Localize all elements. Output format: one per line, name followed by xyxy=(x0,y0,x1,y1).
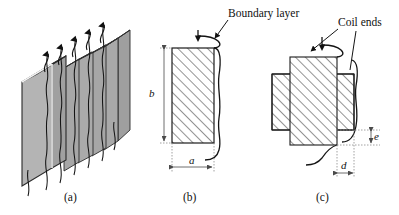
panel-b-artwork xyxy=(160,20,228,172)
dimension-label-d: d xyxy=(341,160,347,171)
dimension-label-b: b xyxy=(149,88,155,99)
caption-panel-c: (c) xyxy=(316,192,329,204)
leader-line-icon xyxy=(215,20,228,38)
figure-container: Boundary layer Coil ends b a e d (a) (b)… xyxy=(0,0,399,215)
boundary-layer-label: Boundary layer xyxy=(228,8,299,20)
caption-panel-a: (a) xyxy=(64,192,77,204)
iso-block-stack xyxy=(22,30,130,186)
dimension-label-a: a xyxy=(189,155,195,166)
coil-ends-label: Coil ends xyxy=(338,17,382,29)
coil-core-c xyxy=(290,57,337,145)
dimension-label-e: e xyxy=(374,131,379,142)
coil-cross-section-b xyxy=(172,48,214,143)
panel-a-artwork xyxy=(22,25,130,196)
figure-artwork xyxy=(0,0,399,215)
panel-c-artwork xyxy=(272,29,380,178)
caption-panel-b: (b) xyxy=(183,192,196,204)
dimension-b xyxy=(160,48,172,143)
